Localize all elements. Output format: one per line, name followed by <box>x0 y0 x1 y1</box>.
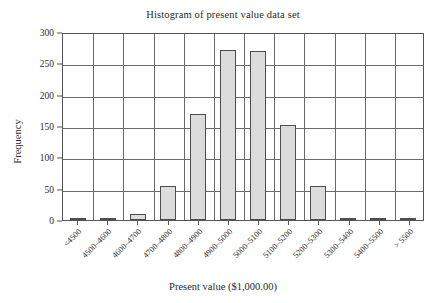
x-axis-tick-mark <box>409 221 410 225</box>
y-axis-tick-label: 250 <box>40 59 54 69</box>
bar-slot <box>273 34 303 220</box>
bar-slot <box>93 34 123 220</box>
x-axis-tick-mark <box>77 221 78 225</box>
x-axis-tick: > 5500 <box>394 221 424 279</box>
x-axis-tick-mark <box>318 221 319 225</box>
bar-slot <box>213 34 243 220</box>
bar-slot <box>123 34 153 220</box>
histogram-bar[interactable] <box>160 186 177 220</box>
histogram-bar[interactable] <box>190 114 207 220</box>
x-axis-tick-label: <4500 <box>62 227 84 249</box>
y-axis-tick-label: 150 <box>40 122 54 132</box>
histogram-bar[interactable] <box>130 214 147 220</box>
histogram-bar[interactable] <box>370 218 387 220</box>
x-axis-tick-mark <box>349 221 350 225</box>
histogram-bar[interactable] <box>340 218 357 220</box>
x-axis-tick-mark <box>258 221 259 225</box>
bar-series <box>63 34 423 220</box>
x-axis-tick-mark <box>379 221 380 225</box>
chart-title: Histogram of present value data set <box>0 9 446 20</box>
histogram-bar[interactable] <box>220 50 237 220</box>
y-axis-tick-label: 100 <box>40 153 54 163</box>
y-axis-tick-label: 50 <box>45 185 55 195</box>
bar-slot <box>183 34 213 220</box>
x-axis-tick-mark <box>198 221 199 225</box>
x-axis-tick-label: > 5500 <box>392 227 415 250</box>
histogram-bar[interactable] <box>250 51 267 220</box>
y-axis: Frequency 050100150200250300 <box>0 33 62 221</box>
bar-slot <box>363 34 393 220</box>
x-axis-tick-mark <box>137 221 138 225</box>
bar-slot <box>63 34 93 220</box>
y-axis-label: Frequency <box>12 87 23 197</box>
histogram-bar[interactable] <box>100 218 117 220</box>
histogram-figure: Histogram of present value data set Freq… <box>0 0 446 303</box>
x-axis-tick: 5400–5500 <box>364 221 394 279</box>
y-axis-tick-label: 0 <box>49 216 54 226</box>
plot-area <box>62 33 424 221</box>
x-axis-tick-mark <box>228 221 229 225</box>
x-axis: <45004500–46004600–47004700–48004800–490… <box>62 221 424 279</box>
x-axis-label: Present value ($1,000.00) <box>0 281 446 292</box>
histogram-bar[interactable] <box>280 125 297 220</box>
x-axis-tick-mark <box>288 221 289 225</box>
y-axis-tick-label: 300 <box>40 28 54 38</box>
bar-slot <box>303 34 333 220</box>
x-axis-tick-mark <box>168 221 169 225</box>
bar-slot <box>333 34 363 220</box>
y-axis-tick-label: 200 <box>40 91 54 101</box>
histogram-bar[interactable] <box>400 218 417 220</box>
histogram-bar[interactable] <box>310 186 327 220</box>
bar-slot <box>243 34 273 220</box>
bar-slot <box>153 34 183 220</box>
histogram-bar[interactable] <box>70 218 87 220</box>
x-axis-tick-mark <box>107 221 108 225</box>
bar-slot <box>393 34 423 220</box>
